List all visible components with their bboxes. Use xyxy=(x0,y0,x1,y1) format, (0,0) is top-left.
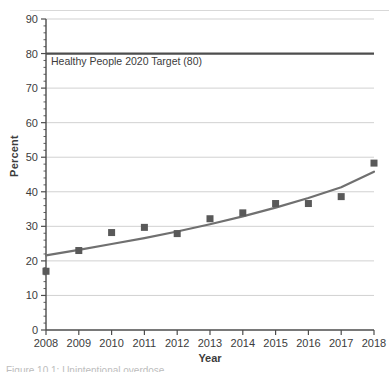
data-point-2017 xyxy=(338,193,345,200)
svg-text:2012: 2012 xyxy=(165,337,189,349)
x-axis-tick-labels: 2008200920102011201220132014201520162017… xyxy=(34,337,386,349)
y-axis-tick-labels: 0102030405060708090 xyxy=(26,13,38,336)
data-point-2013 xyxy=(207,215,214,222)
svg-text:30: 30 xyxy=(26,220,38,232)
data-point-2010 xyxy=(108,229,115,236)
trend-line xyxy=(46,172,374,256)
svg-text:90: 90 xyxy=(26,13,38,25)
plot-area: 0102030405060708090 20082009201020112012… xyxy=(0,0,389,372)
svg-text:2017: 2017 xyxy=(329,337,353,349)
svg-text:20: 20 xyxy=(26,255,38,267)
line-scatter-chart: 0102030405060708090 20082009201020112012… xyxy=(0,0,389,372)
data-point-2016 xyxy=(305,200,312,207)
x-axis-ticks xyxy=(46,330,374,335)
data-point-2011 xyxy=(141,224,148,231)
svg-text:2016: 2016 xyxy=(296,337,320,349)
svg-text:60: 60 xyxy=(26,117,38,129)
svg-text:2014: 2014 xyxy=(231,337,255,349)
data-point-markers xyxy=(43,160,378,275)
svg-text:2008: 2008 xyxy=(34,337,58,349)
data-point-2012 xyxy=(174,230,181,237)
svg-text:2015: 2015 xyxy=(263,337,287,349)
y-axis-title: Percent xyxy=(8,121,20,191)
svg-text:80: 80 xyxy=(26,48,38,60)
data-point-2009 xyxy=(75,247,82,254)
x-axis-title: Year xyxy=(46,352,374,364)
svg-text:2009: 2009 xyxy=(67,337,91,349)
svg-text:2011: 2011 xyxy=(133,337,157,349)
data-point-2015 xyxy=(272,200,279,207)
y-axis-ticks xyxy=(41,19,46,330)
target-line-label: Healthy People 2020 Target (80) xyxy=(51,55,202,67)
data-point-2018 xyxy=(371,160,378,167)
svg-text:10: 10 xyxy=(26,289,38,301)
svg-text:40: 40 xyxy=(26,186,38,198)
svg-text:2018: 2018 xyxy=(362,337,386,349)
data-point-2014 xyxy=(239,209,246,216)
data-point-2008 xyxy=(43,268,50,275)
svg-text:0: 0 xyxy=(32,324,38,336)
svg-text:70: 70 xyxy=(26,82,38,94)
svg-text:50: 50 xyxy=(26,151,38,163)
figure-container: 0102030405060708090 20082009201020112012… xyxy=(0,0,389,372)
figure-caption-partial: Figure 10.1: Unintentional overdose… xyxy=(6,365,336,372)
svg-text:2010: 2010 xyxy=(99,337,123,349)
svg-text:2013: 2013 xyxy=(198,337,222,349)
